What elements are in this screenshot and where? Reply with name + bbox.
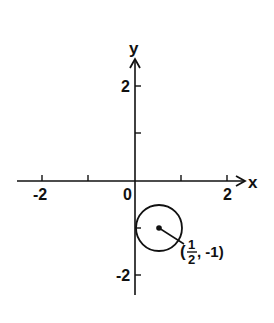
x-tick-label-zero: 0 bbox=[123, 186, 132, 203]
x-tick-label-neg2: -2 bbox=[33, 186, 47, 203]
coordinate-plane: x y -2 0 2 2 -2 ( 1 2 , -1) bbox=[0, 0, 274, 323]
y-axis-label: y bbox=[129, 39, 139, 58]
center-label-numerator: 1 bbox=[188, 237, 195, 252]
center-label-open-paren: ( bbox=[180, 242, 186, 261]
center-label-rest: , -1) bbox=[197, 243, 224, 260]
x-tick-label-pos2: 2 bbox=[223, 186, 232, 203]
center-label-denominator: 2 bbox=[188, 252, 195, 267]
center-label: ( 1 2 , -1) bbox=[180, 237, 224, 267]
y-tick-label-neg2: -2 bbox=[116, 267, 130, 284]
y-tick-label-pos2: 2 bbox=[121, 78, 130, 95]
x-axis-label: x bbox=[248, 173, 258, 192]
